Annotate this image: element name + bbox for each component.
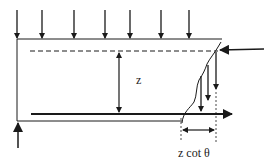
distributed-load-arrows bbox=[17, 10, 189, 38]
compression-force-arrow-icon bbox=[220, 49, 264, 50]
beam-shear-crack-diagram: z z cot θ bbox=[0, 0, 276, 167]
projection-lines bbox=[181, 92, 216, 142]
horizontal-projection-label: z cot θ bbox=[178, 146, 210, 160]
depth-label: z bbox=[136, 73, 141, 87]
